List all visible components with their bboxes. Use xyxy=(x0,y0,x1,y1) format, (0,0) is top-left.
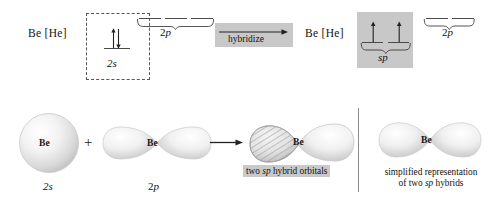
brace-2p-left xyxy=(136,19,216,30)
simplified-inner-label: Be xyxy=(421,134,432,145)
dumbbell-inner-label: Be xyxy=(147,137,158,148)
sp-hybridization-figure: Be [He] 2s 2p hybridize Be [He] xyxy=(0,0,500,201)
hybrid-inner-label: Be xyxy=(293,136,304,147)
caption-simplified-line2: of two sp hybrids xyxy=(366,178,496,189)
caption-simplified: simplified representation of two sp hybr… xyxy=(366,167,496,189)
operator-plus: + xyxy=(84,135,92,150)
reaction-arrow-icon xyxy=(210,138,244,147)
hybridize-label: hybridize xyxy=(228,34,264,44)
spin-arrow-sp-1 xyxy=(369,21,378,43)
label-2p-right: 2p xyxy=(442,26,453,38)
right-atom-label: Be [He] xyxy=(305,27,344,39)
label-2s: 2s xyxy=(107,57,117,69)
caption-2p: 2p xyxy=(148,180,159,192)
sphere-inner-label: Be xyxy=(39,137,50,148)
spin-arrow-sp-2 xyxy=(395,21,404,43)
left-atom-label: Be [He] xyxy=(28,27,67,39)
panel-divider xyxy=(358,108,359,192)
label-2p-left: 2p xyxy=(160,26,171,38)
spin-arrows-2s xyxy=(108,28,126,49)
caption-2s: 2s xyxy=(43,180,53,192)
caption-simplified-line1: simplified representation xyxy=(366,167,496,178)
caption-sp-hybrid: two sp hybrid orbitals xyxy=(243,166,330,177)
label-sp: sp xyxy=(378,51,388,63)
